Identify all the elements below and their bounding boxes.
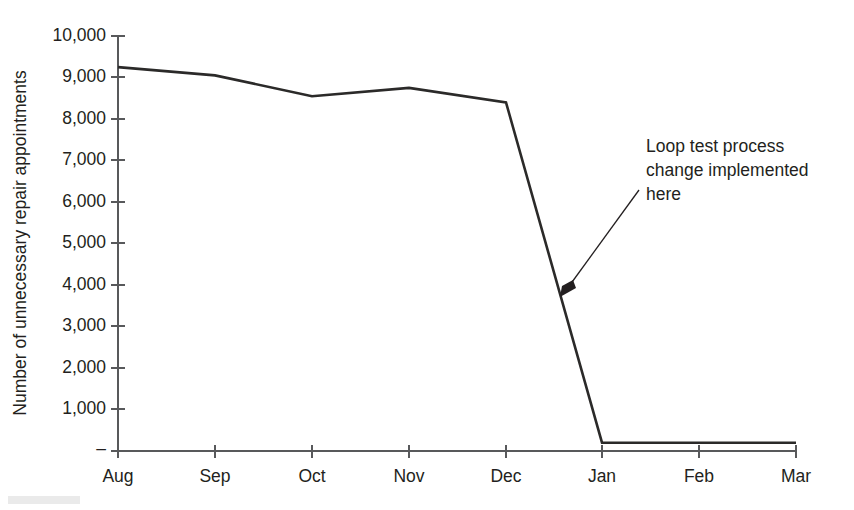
chart-container: Number of unnecessary repair appointment… <box>0 0 854 510</box>
annotation-arrow <box>560 190 639 297</box>
annotation-line-3: here <box>646 184 681 204</box>
x-tick-label-feb: Feb <box>684 466 714 486</box>
y-tick-label-0: – <box>96 438 106 458</box>
y-axis-ticks: 10,000 9,000 8,000 7,000 6,000 5,000 4,0… <box>52 25 125 458</box>
y-axis-title-text: Number of unnecessary repair appointment… <box>10 70 30 416</box>
y-tick-label-2000: 2,000 <box>62 357 106 377</box>
y-tick-label-10000: 10,000 <box>52 25 106 45</box>
x-tick-label-mar: Mar <box>781 466 811 486</box>
line-chart: Number of unnecessary repair appointment… <box>0 0 854 510</box>
y-tick-label-3000: 3,000 <box>62 315 106 335</box>
y-tick-label-6000: 6,000 <box>62 191 106 211</box>
y-tick-label-9000: 9,000 <box>62 66 106 86</box>
y-tick-label-7000: 7,000 <box>62 149 106 169</box>
y-tick-label-1000: 1,000 <box>62 398 106 418</box>
annotation-leader-line <box>567 190 639 289</box>
series-line-unnecessary-repair-appointments <box>118 67 796 443</box>
x-tick-label-sep: Sep <box>199 466 230 486</box>
y-tick-label-5000: 5,000 <box>62 232 106 252</box>
annotation-line-1: Loop test process <box>646 136 784 156</box>
x-tick-label-jan: Jan <box>588 466 616 486</box>
x-tick-label-nov: Nov <box>393 466 424 486</box>
y-axis-title: Number of unnecessary repair appointment… <box>10 70 30 416</box>
annotation-arrowhead-icon <box>560 280 576 297</box>
x-tick-label-dec: Dec <box>490 466 521 486</box>
page-scan-artifact <box>8 496 80 504</box>
annotation-line-2: change implemented <box>646 160 808 180</box>
y-tick-label-4000: 4,000 <box>62 274 106 294</box>
x-tick-label-oct: Oct <box>298 466 325 486</box>
annotation-text-block: Loop test process change implemented her… <box>646 136 808 204</box>
x-tick-label-aug: Aug <box>102 466 133 486</box>
y-tick-label-8000: 8,000 <box>62 108 106 128</box>
